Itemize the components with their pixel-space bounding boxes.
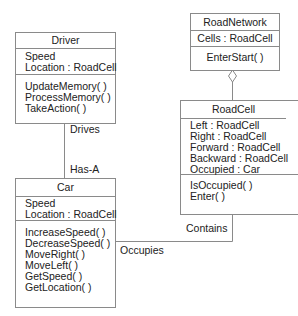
method: GetLocation( ): [25, 282, 115, 293]
methods-section: UpdateMemory( ) ProcessMemory( ) TakeAct…: [16, 75, 115, 114]
attribute: Occupied : Car: [190, 164, 298, 175]
method: TakeAction( ): [25, 103, 115, 114]
attributes-section: Left : RoadCell Right : RoadCell Forward…: [181, 119, 298, 175]
attribute: Location : RoadCell: [25, 209, 115, 220]
aggregation-diamond-icon: [229, 70, 237, 82]
relationship-label-occupies: Occupies: [120, 244, 164, 256]
class-name: Car: [16, 179, 115, 197]
attributes-section: Cells : RoadCell: [191, 31, 279, 47]
class-roadcell[interactable]: RoadCell Left : RoadCell Right : RoadCel…: [180, 100, 298, 215]
attribute: Location : RoadCell: [25, 62, 115, 73]
relationship-label-drives: Drives: [70, 123, 100, 135]
class-car[interactable]: Car Speed Location : RoadCell IncreaseSp…: [15, 178, 116, 308]
methods-section: EnterStart( ): [191, 47, 279, 63]
class-name: Driver: [16, 33, 115, 49]
methods-section: IsOccupied( ) Enter( ): [181, 175, 298, 202]
relationship-label-contains: Contains: [186, 222, 227, 234]
methods-section: IncreaseSpeed( ) DecreaseSpeed( ) MoveRi…: [16, 221, 115, 293]
method: Enter( ): [190, 191, 298, 202]
class-roadnetwork[interactable]: RoadNetwork Cells : RoadCell EnterStart(…: [190, 13, 280, 71]
method: EnterStart( ): [191, 52, 279, 63]
attribute: Cells : RoadCell: [191, 31, 279, 46]
class-driver[interactable]: Driver Speed Location : RoadCell UpdateM…: [15, 32, 116, 124]
relationship-label-has-a: Has-A: [70, 163, 99, 175]
attributes-section: Speed Location : RoadCell: [16, 197, 115, 221]
class-name: RoadCell: [181, 101, 286, 119]
class-name: RoadNetwork: [191, 14, 279, 31]
attributes-section: Speed Location : RoadCell: [16, 49, 115, 75]
